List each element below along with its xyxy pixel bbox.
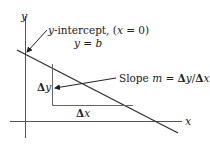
delta-x-label: Δx <box>76 107 90 119</box>
intercept-pointer-arrow <box>27 30 47 52</box>
slope-pointer-arrow <box>55 78 116 88</box>
y-axis-label: y <box>20 10 28 23</box>
delta-y-label: Δy <box>37 81 52 93</box>
x-axis-label: x <box>185 115 192 128</box>
intercept-value-label: y = b <box>73 37 102 49</box>
slope-intercept-diagram: y x y-intercept, (x = 0) y = b Slope m =… <box>0 0 210 144</box>
intercept-label: y-intercept, (x = 0) <box>47 24 149 36</box>
slope-label: Slope m = Δy/Δx <box>119 72 209 84</box>
